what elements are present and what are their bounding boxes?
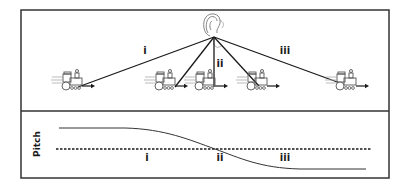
- doppler-diagram: i ii iii Pitch i ii iii: [0, 0, 409, 189]
- pitch-label-iii: iii: [280, 153, 290, 163]
- pitch-label-ii: ii: [217, 153, 224, 163]
- diagram-canvas: [0, 0, 409, 189]
- ray-label-i: i: [143, 46, 146, 56]
- ray-label-iii: iii: [280, 46, 290, 56]
- pitch-label-i: i: [145, 153, 148, 163]
- diagram-frame: [21, 10, 389, 178]
- ray-label-ii: ii: [217, 59, 224, 69]
- pitch-axis-label: Pitch: [32, 129, 42, 159]
